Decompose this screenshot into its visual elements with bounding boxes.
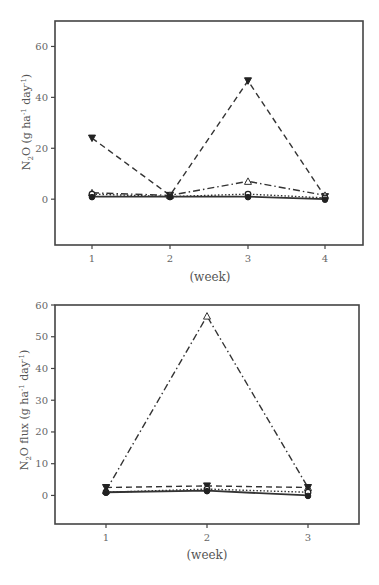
series-line	[92, 81, 325, 197]
filled-circle-marker-icon	[89, 194, 95, 200]
series-line	[106, 316, 308, 491]
x-tick-label: 2	[204, 532, 210, 543]
filled-circle-marker-icon	[167, 194, 173, 200]
x-tick-label: 1	[89, 253, 95, 264]
y-tick-label: 60	[35, 41, 48, 52]
filled-circle-marker-icon	[245, 194, 251, 200]
plot-frame	[55, 21, 363, 245]
series-line	[92, 197, 325, 200]
x-axis-label: (week)	[189, 270, 230, 284]
y-tick-label: 60	[35, 300, 48, 311]
x-axis-label: (week)	[186, 548, 227, 562]
series-filled-circle-solid	[103, 488, 311, 498]
filled-circle-marker-icon	[305, 493, 311, 499]
x-tick-label: 2	[167, 253, 173, 264]
filled-circle-marker-icon	[103, 490, 109, 496]
y-tick-label: 20	[35, 143, 48, 154]
y-tick-label: 0	[42, 194, 48, 205]
y-tick-label: 30	[35, 395, 48, 406]
y-tick-label: 10	[35, 458, 48, 469]
x-tick-label: 3	[245, 253, 251, 264]
series-open-triangle-dashdot	[103, 313, 312, 494]
y-tick-label: 20	[35, 426, 48, 437]
bottom-chart-weekly-n2o-flux: 0102030405060123(week)N2O flux (g ha-1 d…	[0, 290, 379, 585]
y-tick-label: 0	[42, 490, 48, 501]
series-filled-down-triangle-dashed	[89, 78, 329, 200]
bottom-chart-svg: 0102030405060123(week)N2O flux (g ha-1 d…	[0, 290, 379, 585]
x-tick-label: 4	[322, 253, 328, 264]
x-tick-label: 3	[305, 532, 311, 543]
series-line	[92, 181, 325, 195]
y-tick-label: 40	[35, 363, 48, 374]
y-tick-label: 50	[35, 331, 48, 342]
filled-circle-marker-icon	[322, 197, 328, 203]
y-axis-label: N2O (g ha-1 day-1)	[20, 74, 35, 170]
top-chart-weekly-n2o: 02040601234(week)N2O (g ha-1 day-1)	[0, 0, 379, 290]
top-chart-svg: 02040601234(week)N2O (g ha-1 day-1)	[0, 0, 379, 290]
filled-circle-marker-icon	[204, 488, 210, 494]
y-axis-label: N2O flux (g ha-1 day-1)	[18, 350, 33, 470]
x-tick-label: 1	[103, 532, 109, 543]
y-tick-label: 40	[35, 92, 48, 103]
triangle-marker-icon	[204, 313, 211, 320]
